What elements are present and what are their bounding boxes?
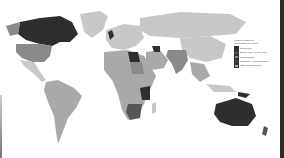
legend-swatch bbox=[234, 64, 239, 68]
region-russia bbox=[140, 12, 246, 38]
right-edge-border bbox=[280, 0, 284, 158]
region-sudan bbox=[130, 62, 144, 74]
world-map bbox=[0, 0, 280, 158]
region-mexico bbox=[20, 60, 46, 82]
legend-label: Dominions bbox=[240, 47, 251, 50]
region-alaska bbox=[6, 22, 20, 36]
legend-title-line2: Great Britain & Ireland bbox=[234, 42, 280, 45]
map-svg bbox=[0, 0, 280, 158]
region-south-america bbox=[44, 80, 82, 144]
map-legend: United Kingdom of Great Britain & Irelan… bbox=[234, 39, 280, 68]
left-edge-shadow bbox=[0, 95, 2, 158]
region-canada bbox=[18, 16, 78, 46]
region-greenland bbox=[80, 11, 108, 38]
legend-label: Mandates, Trust Territories bbox=[240, 60, 268, 63]
legend-label: Other dependencies bbox=[240, 64, 262, 67]
region-indonesia bbox=[206, 84, 236, 92]
legend-label: Protectorates bbox=[240, 56, 254, 59]
region-australia bbox=[214, 98, 256, 126]
legend-title: United Kingdom of Great Britain & Irelan… bbox=[234, 39, 280, 45]
region-usa bbox=[16, 44, 52, 62]
legend-item-other: Other dependencies bbox=[234, 64, 280, 68]
region-new-zealand bbox=[262, 126, 268, 136]
region-india bbox=[166, 50, 188, 74]
region-southeast-asia bbox=[190, 62, 210, 82]
region-madagascar bbox=[152, 102, 156, 114]
region-egypt bbox=[128, 52, 140, 62]
region-png bbox=[238, 92, 250, 98]
legend-label: British India, Ruled Areas bbox=[240, 51, 267, 54]
